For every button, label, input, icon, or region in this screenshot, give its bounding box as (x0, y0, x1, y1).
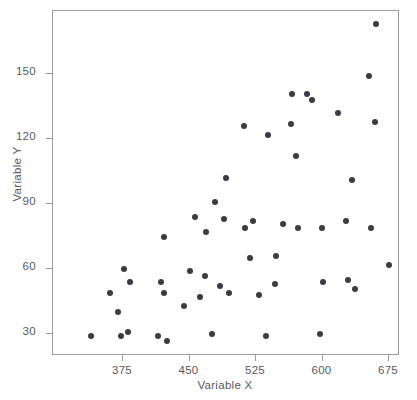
y-tick-mark (46, 203, 52, 204)
data-point (226, 290, 232, 296)
data-point (247, 255, 253, 261)
data-point (107, 290, 113, 296)
x-axis-title: Variable X (155, 379, 295, 391)
data-point (197, 294, 203, 300)
data-point (343, 218, 349, 224)
data-point (209, 331, 215, 337)
x-tick-label: 600 (292, 364, 352, 376)
data-point (372, 119, 378, 125)
x-tick-label: 675 (358, 364, 417, 376)
data-point (181, 303, 187, 309)
data-point (241, 123, 247, 129)
data-point (319, 225, 325, 231)
x-tick-label: 525 (225, 364, 285, 376)
x-tick-mark (322, 355, 323, 361)
data-point (295, 225, 301, 231)
y-tick-label: 30 (0, 325, 36, 337)
data-point (349, 177, 355, 183)
y-tick-label: 60 (0, 260, 36, 272)
scatter-plot-figure: 306090120150 375450525600675 Variable Y … (0, 0, 417, 400)
data-point (118, 333, 124, 339)
data-point (289, 91, 295, 97)
data-points-layer (53, 11, 398, 354)
y-tick-mark (46, 268, 52, 269)
data-point (125, 329, 131, 335)
data-point (88, 333, 94, 339)
data-point (187, 268, 193, 274)
x-tick-label: 375 (92, 364, 152, 376)
x-tick-mark (255, 355, 256, 361)
data-point (288, 121, 294, 127)
data-point (335, 110, 341, 116)
data-point (202, 273, 208, 279)
data-point (217, 283, 223, 289)
y-axis-title: Variable Y (11, 134, 23, 214)
data-point (164, 338, 170, 344)
data-point (121, 266, 127, 272)
x-tick-label: 450 (159, 364, 219, 376)
data-point (366, 73, 372, 79)
data-point (320, 279, 326, 285)
y-tick-mark (46, 138, 52, 139)
data-point (155, 333, 161, 339)
data-point (115, 309, 121, 315)
data-point (345, 277, 351, 283)
data-point (203, 229, 209, 235)
y-tick-mark (46, 73, 52, 74)
data-point (273, 253, 279, 259)
y-tick-mark (46, 333, 52, 334)
plot-area-frame (52, 10, 399, 355)
data-point (221, 216, 227, 222)
data-point (263, 333, 269, 339)
data-point (352, 286, 358, 292)
y-tick-label: 150 (0, 65, 36, 77)
data-point (373, 21, 379, 27)
data-point (250, 218, 256, 224)
data-point (386, 262, 392, 268)
data-point (242, 225, 248, 231)
data-point (161, 234, 167, 240)
x-tick-mark (388, 355, 389, 361)
data-point (161, 290, 167, 296)
x-tick-mark (122, 355, 123, 361)
data-point (304, 91, 310, 97)
data-point (212, 199, 218, 205)
data-point (309, 97, 315, 103)
data-point (192, 214, 198, 220)
data-point (317, 331, 323, 337)
data-point (256, 292, 262, 298)
x-tick-mark (189, 355, 190, 361)
data-point (158, 279, 164, 285)
data-point (272, 281, 278, 287)
data-point (223, 175, 229, 181)
data-point (265, 132, 271, 138)
data-point (280, 221, 286, 227)
data-point (127, 279, 133, 285)
data-point (368, 225, 374, 231)
data-point (293, 153, 299, 159)
